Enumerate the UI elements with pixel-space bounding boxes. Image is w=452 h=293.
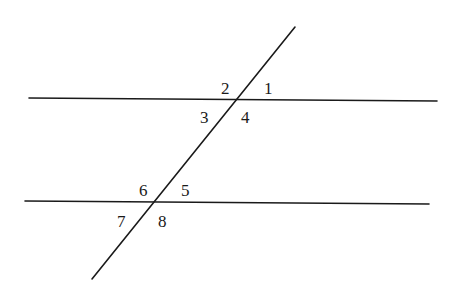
transversal-line <box>92 27 295 279</box>
angle-label-7: 7 <box>117 212 126 231</box>
angle-label-8: 8 <box>158 212 167 231</box>
angle-label-3: 3 <box>200 108 209 127</box>
parallel-line-top <box>29 98 437 101</box>
angle-label-6: 6 <box>139 181 148 200</box>
diagram-svg: 1 2 3 4 5 6 7 8 <box>0 0 452 293</box>
angle-label-5: 5 <box>181 181 190 200</box>
diagram-canvas: 1 2 3 4 5 6 7 8 <box>0 0 452 293</box>
angle-label-2: 2 <box>221 79 230 98</box>
angle-label-4: 4 <box>241 108 250 127</box>
angle-label-1: 1 <box>264 79 273 98</box>
parallel-line-bottom <box>25 201 429 204</box>
